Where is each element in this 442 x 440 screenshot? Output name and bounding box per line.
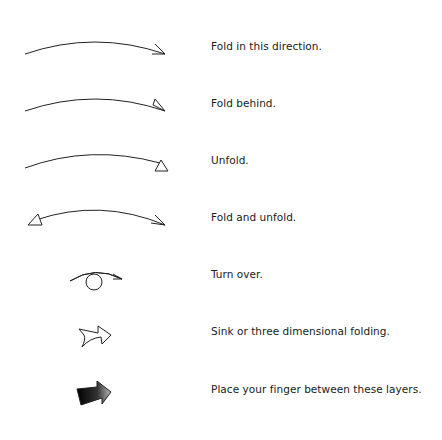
valley-fold-arrow-icon (0, 27, 200, 67)
sink-arrow-icon (0, 311, 200, 351)
finger-between-layers-arrow-icon (0, 367, 200, 407)
legend-row-finger-between-layers: Place your finger between these layers. (0, 367, 442, 407)
legend-label: Place your finger between these layers. (211, 383, 422, 395)
turn-over-arrow-icon (0, 255, 200, 295)
legend-row-fold-direction: Fold in this direction. (0, 27, 442, 67)
legend-label: Unfold. (211, 154, 249, 166)
mountain-fold-arrow-icon (0, 84, 200, 124)
legend-label: Turn over. (211, 268, 263, 280)
legend-label: Fold and unfold. (211, 211, 296, 223)
legend-label: Sink or three dimensional folding. (211, 325, 390, 337)
legend-row-unfold: Unfold. (0, 141, 442, 181)
legend-label: Fold behind. (211, 97, 276, 109)
legend-row-turn-over: Turn over. (0, 255, 442, 295)
unfold-arrow-icon (0, 141, 200, 181)
legend-row-fold-and-unfold: Fold and unfold. (0, 198, 442, 238)
legend-label: Fold in this direction. (211, 40, 322, 52)
fold-and-unfold-arrow-icon (0, 198, 200, 238)
legend-row-sink: Sink or three dimensional folding. (0, 311, 442, 351)
legend-row-fold-behind: Fold behind. (0, 84, 442, 124)
